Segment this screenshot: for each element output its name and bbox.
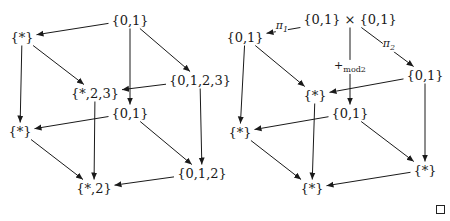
- edge-r_left01-to-r_star_c: [255, 46, 304, 87]
- edge-l_star23-to-l_star2: [94, 102, 95, 180]
- edge-l_mid01-to-l_star_bot: [35, 117, 109, 129]
- node-l-top: {0,1}: [110, 14, 149, 27]
- edge-l_012-to-l_star2: [115, 177, 175, 185]
- node-r-star-l: {*}: [227, 126, 252, 139]
- edge-l_star_bot-to-l_star2: [31, 140, 83, 180]
- node-l-0123: {0,1,2,3}: [168, 74, 232, 87]
- node-r-star-b: {*}: [299, 182, 324, 195]
- edge-l_0123-to-l_star23: [122, 84, 166, 89]
- pi1-label: π1: [276, 20, 288, 34]
- node-r-mid01: {0,1}: [330, 107, 369, 120]
- edge-l_star_top-to-l_star23: [33, 46, 84, 85]
- edge-r_mid01-to-r_star_l: [255, 117, 329, 130]
- node-l-star-bot: {*}: [7, 125, 32, 138]
- edge-r_star_c-to-r_star_b: [312, 104, 314, 180]
- node-r-star-c: {*}: [302, 89, 327, 102]
- edge-r_star_r-to-r_star_b: [327, 172, 411, 185]
- pi2-label: π2: [383, 38, 395, 52]
- edge-r_left01-to-r_star_l: [240, 46, 244, 124]
- pi2-sub: 2: [390, 43, 395, 52]
- node-l-star-top: {*}: [9, 31, 34, 44]
- edge-r_right01-to-r_star_c: [330, 79, 404, 92]
- mod2-label: +mod2: [334, 60, 366, 74]
- node-r-right01: {0,1}: [405, 69, 444, 82]
- node-l-star2: {*,2}: [75, 182, 112, 195]
- edge-l_0123-to-l_012: [200, 89, 202, 165]
- node-l-mid01: {0,1}: [110, 107, 149, 120]
- end-of-proof-marker: [436, 205, 445, 214]
- node-l-star23: {*,2,3}: [70, 87, 120, 100]
- node-r-star-r: {*}: [412, 164, 437, 177]
- node-r-top: {0,1} × {0,1}: [302, 13, 398, 26]
- node-l-012: {0,1,2}: [176, 167, 228, 180]
- edge-r_star_l-to-r_star_b: [251, 141, 301, 180]
- edge-l_mid01-to-l_012: [140, 122, 192, 165]
- mod2-sub: mod2: [343, 65, 366, 74]
- mod2-base: +: [334, 59, 343, 72]
- node-r-left01: {0,1}: [225, 31, 264, 44]
- edge-l_star_top-to-l_star_bot: [20, 46, 22, 123]
- edge-r_mid01-to-r_star_r: [361, 122, 414, 162]
- edge-l_top-to-l_0123: [140, 29, 190, 72]
- edge-l_top-to-l_star_top: [37, 23, 109, 34]
- pi1-sub: 1: [283, 25, 288, 34]
